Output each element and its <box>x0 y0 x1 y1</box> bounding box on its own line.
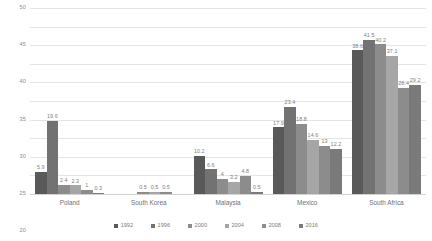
bar[interactable] <box>330 149 342 194</box>
bar[interactable] <box>296 124 308 194</box>
bar-value-label: 0.5 <box>162 185 170 190</box>
bar-value-label: 4 <box>221 172 224 177</box>
bar[interactable] <box>284 107 296 194</box>
legend-item[interactable]: 2008 <box>262 223 281 229</box>
x-axis-category-label: Poland <box>30 196 109 210</box>
bar[interactable] <box>205 169 217 194</box>
bar[interactable] <box>35 172 47 194</box>
legend-label: 2004 <box>232 223 244 229</box>
legend-item[interactable]: 2016 <box>299 223 318 229</box>
legend-swatch-icon <box>188 224 192 228</box>
bar-slot[interactable]: 41.5 <box>363 8 375 194</box>
legend-label: 1992 <box>121 223 133 229</box>
bar[interactable] <box>363 40 375 194</box>
bar-slot[interactable]: 3.2 <box>228 8 240 194</box>
bar-value-label: 12.2 <box>331 142 342 147</box>
x-axis-categories: PolandSouth KoreaMalaysiaMexicoSouth Afr… <box>30 196 426 210</box>
bar-slot[interactable]: 29.2 <box>409 8 421 194</box>
bar-slot[interactable]: 0.3 <box>93 8 105 194</box>
bar-value-label: 2.4 <box>60 178 68 183</box>
bar-slot[interactable]: 37.1 <box>386 8 398 194</box>
bar-value-label: 38.6 <box>352 44 363 49</box>
bar-slot[interactable]: 0.5 <box>137 8 149 194</box>
bar-value-label: 2.3 <box>72 179 80 184</box>
bar[interactable] <box>137 192 149 194</box>
bar-slot[interactable]: 14.6 <box>307 8 319 194</box>
y-axis-tick-label: 30 <box>20 154 26 160</box>
bar-slot[interactable]: 28.4 <box>398 8 410 194</box>
bar[interactable] <box>409 85 421 194</box>
bar-slot[interactable]: 4.8 <box>240 8 252 194</box>
bar[interactable] <box>81 190 93 194</box>
bar[interactable] <box>352 50 364 194</box>
bar-chart: 05101520253035404550 5.919.62.42.310.30.… <box>0 0 432 241</box>
legend-item[interactable]: 1992 <box>114 223 133 229</box>
bar-slot[interactable]: 0.5 <box>251 8 263 194</box>
bar-value-label: 41.5 <box>364 33 375 38</box>
bar-value-label: 0.5 <box>139 185 147 190</box>
legend-item[interactable]: 2004 <box>225 223 244 229</box>
bar[interactable] <box>273 127 285 194</box>
bar-slot[interactable]: 0.5 <box>149 8 161 194</box>
bar[interactable] <box>93 193 105 194</box>
legend-swatch-icon <box>114 224 118 228</box>
bar-value-label: 5.9 <box>37 165 45 170</box>
bar-slot[interactable]: 4 <box>217 8 229 194</box>
bar-value-label: 1 <box>85 183 88 188</box>
bar-value-label: 6.6 <box>207 163 215 168</box>
legend-label: 2000 <box>195 223 207 229</box>
bar-value-label: 19.6 <box>47 114 58 119</box>
legend-swatch-icon <box>262 224 266 228</box>
bar-group: 38.641.540.237.128.429.2 <box>347 8 426 194</box>
bar[interactable] <box>194 156 206 194</box>
bar-slot[interactable]: 2.4 <box>58 8 70 194</box>
bar[interactable] <box>160 192 172 194</box>
bar[interactable] <box>58 185 70 194</box>
legend-swatch-icon <box>151 224 155 228</box>
bar-value-label: 23.4 <box>285 100 296 105</box>
chart-legend: 199219962000200420082016 <box>0 219 432 233</box>
bar[interactable] <box>70 185 82 194</box>
legend-item[interactable]: 1996 <box>151 223 170 229</box>
bar-slot[interactable]: 0.5 <box>160 8 172 194</box>
bar-slot[interactable]: 6.6 <box>205 8 217 194</box>
bar-slot[interactable]: 10.2 <box>194 8 206 194</box>
y-axis-tick-label: 50 <box>20 5 26 11</box>
bar[interactable] <box>240 176 252 194</box>
bar-slot[interactable]: 13 <box>319 8 331 194</box>
bar-slot[interactable]: 2.3 <box>70 8 82 194</box>
bar[interactable] <box>149 192 161 194</box>
bar-slot[interactable]: 40.2 <box>375 8 387 194</box>
bar[interactable] <box>375 44 387 194</box>
bar[interactable] <box>217 179 229 194</box>
bar-value-label: 14.6 <box>308 133 319 138</box>
bar-slot[interactable]: 18.8 <box>296 8 308 194</box>
bar-value-label: 0.3 <box>95 186 103 191</box>
bar-slot[interactable]: 12.2 <box>330 8 342 194</box>
bar-slot[interactable]: 38.6 <box>352 8 364 194</box>
bar[interactable] <box>386 56 398 194</box>
bar[interactable] <box>319 146 331 194</box>
bar-slot[interactable]: 17.9 <box>273 8 285 194</box>
legend-label: 2016 <box>305 223 317 229</box>
bar-value-label: 13 <box>321 139 327 144</box>
bar-slot[interactable] <box>126 8 138 194</box>
bar-slot[interactable] <box>172 8 184 194</box>
bar-slot[interactable] <box>114 8 126 194</box>
bar-slot[interactable]: 19.6 <box>47 8 59 194</box>
x-axis-category-label: Mexico <box>268 196 347 210</box>
bar[interactable] <box>228 182 240 194</box>
bar[interactable] <box>47 121 59 194</box>
bar[interactable] <box>307 140 319 194</box>
plot-area: 05101520253035404550 5.919.62.42.310.30.… <box>30 8 426 194</box>
bar-slot[interactable]: 5.9 <box>35 8 47 194</box>
bar-slot[interactable]: 23.4 <box>284 8 296 194</box>
legend-item[interactable]: 2000 <box>188 223 207 229</box>
bar[interactable] <box>251 192 263 194</box>
bar-groups: 5.919.62.42.310.30.50.50.510.26.643.24.8… <box>30 8 426 194</box>
bar-value-label: 10.2 <box>194 149 205 154</box>
bar-value-label: 0.5 <box>253 185 261 190</box>
bar-slot[interactable]: 1 <box>81 8 93 194</box>
bar[interactable] <box>398 88 410 194</box>
legend-swatch-icon <box>299 224 303 228</box>
